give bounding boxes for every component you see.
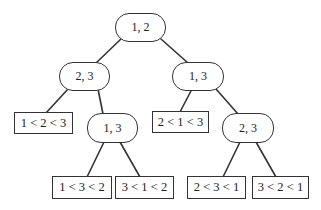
leaf-3-2-1: 3 < 2 < 1 — [252, 176, 309, 199]
edge-l-ll — [46, 89, 68, 113]
leaf-2-1-3: 2 < 1 < 3 — [152, 111, 209, 133]
edge-lr-lrl — [87, 142, 104, 177]
leaf-3-1-2: 3 < 1 < 2 — [115, 176, 174, 199]
edge-root-l — [96, 39, 121, 63]
edge-r-rr — [216, 89, 238, 114]
edge-l-lr — [98, 89, 103, 114]
edge-r-rl — [180, 89, 192, 112]
edge-root-r — [161, 39, 188, 63]
leaf-1-3-2: 1 < 3 < 2 — [52, 176, 112, 199]
leaf-1-2-3: 1 < 2 < 3 — [14, 112, 73, 134]
node-root-comparison: 1, 2 — [115, 13, 166, 42]
node-right-comparison: 1, 3 — [172, 62, 224, 91]
node-left-right-comparison: 1, 3 — [87, 113, 138, 143]
edge-rr-rrr — [256, 142, 276, 177]
node-left-comparison: 2, 3 — [59, 62, 110, 91]
leaf-2-3-1: 2 < 3 < 1 — [187, 176, 246, 199]
edge-rr-rrl — [223, 142, 240, 177]
edge-lr-lrr — [120, 142, 140, 177]
node-right-right-comparison: 2, 3 — [222, 113, 274, 143]
